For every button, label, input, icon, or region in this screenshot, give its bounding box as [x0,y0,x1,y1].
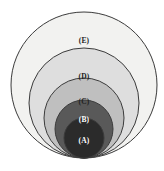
nested-circles-diagram: (E) (D) (C) (B) (A) [0,0,164,171]
circle-label-e: (E) [79,36,90,45]
circle-label-c: (C) [78,97,89,106]
diagram-canvas: (E) (D) (C) (B) (A) [0,0,164,171]
circle-label-a: (A) [78,136,89,145]
circle-label-b: (B) [79,115,90,124]
circle-label-d: (D) [78,72,89,81]
